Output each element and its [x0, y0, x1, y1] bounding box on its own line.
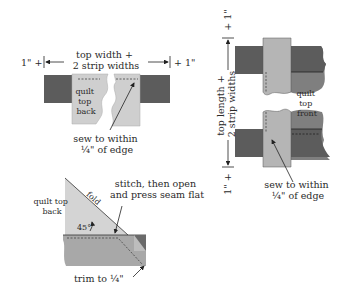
vertical-strip-upper [263, 38, 291, 95]
vertical-strip-lower [263, 109, 291, 167]
top-left-diagram: quilt top back sew to within ¼" of edge … [21, 49, 195, 155]
fabric-label: quilt top back [75, 87, 96, 116]
dim-right-label: + 1" [174, 57, 195, 68]
trim-label: trim to ¼" [74, 273, 124, 284]
angle-label: 45° [77, 223, 91, 232]
bottom-left-diagram: quilt top back fold 45° stitch, then ope… [34, 178, 205, 284]
dim-label: top length + 2 strip widths [215, 71, 237, 138]
callout-text: sew to within ¼" of edge [264, 179, 332, 201]
lower-dark-strip-left [235, 129, 265, 157]
fabric-label: quilt top front [296, 89, 317, 118]
upper-dark-strip-left [235, 46, 265, 74]
upper-dark-strip-right [290, 46, 326, 72]
trim-callout-arrow [133, 266, 144, 277]
right-diagram: quilt top front sew to within ¼" of edge… [215, 9, 332, 201]
dim-label: top width + 2 strip widths [73, 49, 140, 71]
dim-top-label: + 1" [222, 9, 233, 30]
callout-text: sew to within ¼" of edge [73, 133, 141, 155]
quilt-binding-diagram: quilt top back sew to within ¼" of edge … [0, 0, 351, 290]
left-dark-strip [44, 75, 74, 103]
fabric-label: quilt top back [34, 197, 71, 216]
right-dark-strip [140, 75, 170, 103]
dim-bottom-label: 1" + [222, 173, 233, 194]
stitch-callout-text: stitch, then open and press seam flat [110, 178, 204, 200]
binding-strip [63, 235, 146, 266]
lower-dark-strip-right [290, 129, 330, 157]
dim-left-label: 1" + [21, 57, 42, 68]
